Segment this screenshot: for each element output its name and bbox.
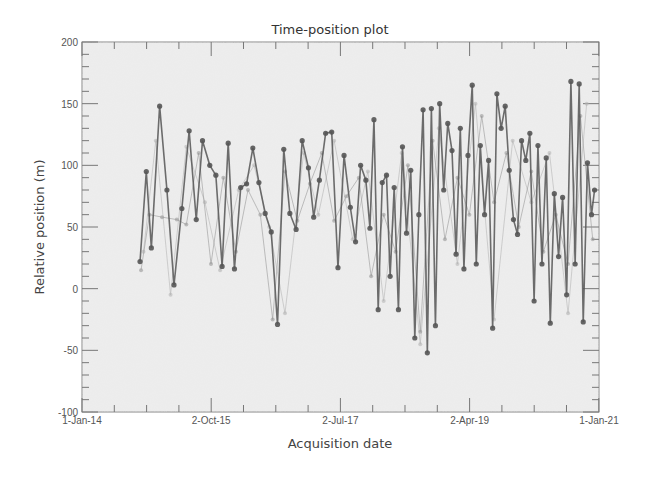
x-tick-label: 2-Oct-15 (192, 415, 231, 426)
data-point (371, 117, 376, 122)
y-tick-label: -50 (64, 345, 79, 356)
data-point (358, 163, 363, 168)
data-point (449, 148, 454, 153)
data-point (400, 144, 405, 149)
data-point (547, 151, 551, 155)
data-point (589, 212, 594, 217)
data-point (187, 128, 192, 133)
y-tick-label: 100 (61, 160, 78, 171)
data-point (531, 298, 536, 303)
data-point (294, 227, 299, 232)
data-point (585, 160, 590, 165)
data-point (157, 104, 162, 109)
data-point (511, 217, 516, 222)
y-tick-label: 150 (61, 99, 78, 110)
data-point (376, 307, 381, 312)
data-point (244, 181, 249, 186)
data-point (144, 169, 149, 174)
data-point (256, 180, 261, 185)
data-point (478, 143, 483, 148)
data-point (503, 104, 508, 109)
data-point (171, 282, 176, 287)
data-point (404, 231, 409, 236)
data-point (281, 147, 286, 152)
data-point (353, 239, 358, 244)
data-point (380, 180, 385, 185)
data-point (348, 205, 353, 210)
data-point (552, 191, 557, 196)
data-point (275, 322, 280, 327)
data-point (207, 163, 212, 168)
data-point (581, 319, 586, 324)
data-point (306, 165, 311, 170)
data-point (209, 262, 213, 266)
data-point (164, 187, 169, 192)
data-point (458, 126, 463, 131)
chart-title: Time-position plot (270, 22, 388, 37)
data-point (160, 215, 164, 219)
data-point (137, 259, 142, 264)
data-point (194, 217, 199, 222)
data-point (213, 173, 218, 178)
data-point (441, 187, 446, 192)
data-point (465, 153, 470, 158)
data-point (519, 138, 524, 143)
data-point (511, 139, 515, 143)
data-point (527, 131, 532, 136)
data-point (316, 213, 320, 217)
data-point (226, 141, 231, 146)
data-point (197, 151, 201, 155)
data-point (169, 293, 173, 297)
data-point (179, 206, 184, 211)
data-point (467, 213, 471, 217)
data-point (396, 307, 401, 312)
data-point (220, 264, 225, 269)
data-point (437, 101, 442, 106)
data-point (573, 261, 578, 266)
data-point (317, 178, 322, 183)
data-point (271, 318, 275, 322)
data-point (515, 232, 520, 237)
data-point (443, 237, 447, 241)
y-tick-label: 50 (67, 222, 79, 233)
data-point (238, 185, 243, 190)
x-tick-label: 1-Jan-14 (62, 415, 102, 426)
x-tick-label: 2-Jul-17 (322, 415, 359, 426)
data-point (592, 187, 597, 192)
data-point (461, 266, 466, 271)
data-point (329, 129, 334, 134)
data-point (366, 170, 370, 174)
x-tick-label: 1-Jan-21 (579, 415, 619, 426)
x-axis-label: Acquisition date (288, 436, 393, 451)
data-point (470, 83, 475, 88)
data-point (523, 158, 528, 163)
data-point (564, 292, 569, 297)
y-tick-label: 0 (72, 284, 78, 295)
data-point (341, 153, 346, 158)
data-point (412, 335, 417, 340)
data-point (408, 168, 413, 173)
data-point (392, 185, 397, 190)
data-point (258, 213, 262, 217)
data-point (263, 211, 268, 216)
data-point (363, 178, 368, 183)
time-position-chart: Time-position plot -100-50050100150200 1… (0, 0, 654, 480)
data-point (418, 342, 422, 346)
data-point (560, 195, 565, 200)
data-point (335, 265, 340, 270)
data-point (486, 158, 491, 163)
data-point (287, 211, 292, 216)
data-point (539, 261, 544, 266)
data-point (406, 163, 410, 167)
data-point (535, 143, 540, 148)
data-point (577, 81, 582, 86)
data-point (416, 212, 421, 217)
data-point (568, 79, 573, 84)
data-point (269, 229, 274, 234)
data-point (453, 252, 458, 257)
data-point (323, 131, 328, 136)
data-point (499, 126, 504, 131)
data-point (544, 155, 549, 160)
data-point (473, 102, 477, 106)
data-point (283, 311, 287, 315)
